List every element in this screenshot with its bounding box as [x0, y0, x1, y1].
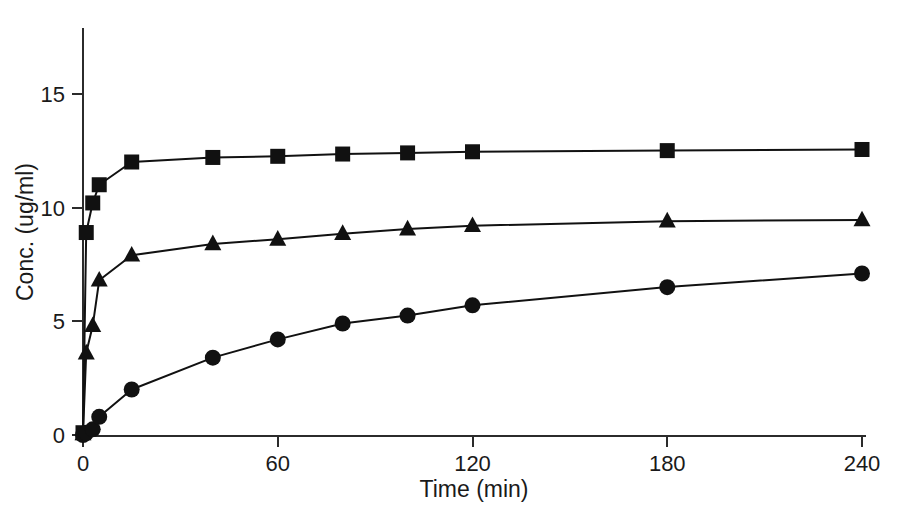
x-tick-label: 120 — [454, 451, 491, 476]
series-line — [83, 220, 862, 434]
y-tick-label: 5 — [53, 309, 65, 334]
chart-figure: 051015 060120180240 Time (min) Conc. (ug… — [0, 0, 901, 523]
data-point-triangle — [91, 271, 108, 287]
y-tick-label: 10 — [41, 196, 65, 221]
data-point-square — [400, 145, 415, 160]
data-point-circle — [335, 316, 351, 332]
data-point-square — [79, 225, 94, 240]
data-point-triangle — [464, 216, 481, 232]
data-point-triangle — [84, 317, 101, 333]
data-point-circle — [659, 279, 675, 295]
data-point-circle — [270, 331, 286, 347]
data-point-square — [465, 144, 480, 159]
plot-area: 051015 060120180240 Time (min) Conc. (ug… — [0, 0, 901, 523]
y-tick-label: 0 — [53, 423, 65, 448]
x-tick-label: 240 — [844, 451, 881, 476]
y-tick-label: 15 — [41, 82, 65, 107]
data-point-triangle — [399, 220, 416, 236]
x-tick-group: 060120180240 — [77, 436, 880, 476]
data-point-triangle — [334, 224, 351, 240]
y-axis-title: Conc. (ug/ml) — [12, 163, 38, 301]
series-square — [76, 142, 870, 440]
x-tick-label: 0 — [77, 451, 89, 476]
data-point-square — [85, 195, 100, 210]
series-group — [75, 142, 871, 443]
data-point-circle — [91, 409, 107, 425]
data-point-circle — [854, 265, 870, 281]
data-point-circle — [400, 308, 416, 324]
data-point-triangle — [854, 211, 871, 227]
data-point-square — [660, 143, 675, 158]
data-point-square — [335, 147, 350, 162]
data-point-square — [205, 150, 220, 165]
x-tick-label: 180 — [649, 451, 686, 476]
data-point-triangle — [204, 235, 221, 251]
x-tick-label: 60 — [266, 451, 290, 476]
data-point-triangle — [659, 212, 676, 228]
series-triangle — [75, 211, 871, 440]
data-point-circle — [124, 382, 140, 398]
data-point-square — [124, 155, 139, 170]
data-point-circle — [465, 297, 481, 313]
data-point-circle — [205, 350, 221, 366]
data-point-square — [92, 177, 107, 192]
y-tick-group: 051015 — [41, 82, 83, 448]
x-axis-title: Time (min) — [419, 476, 528, 502]
series-circle — [75, 265, 870, 443]
data-point-square — [270, 149, 285, 164]
data-point-triangle — [78, 344, 95, 360]
data-point-square — [855, 142, 870, 157]
series-line — [83, 150, 862, 433]
